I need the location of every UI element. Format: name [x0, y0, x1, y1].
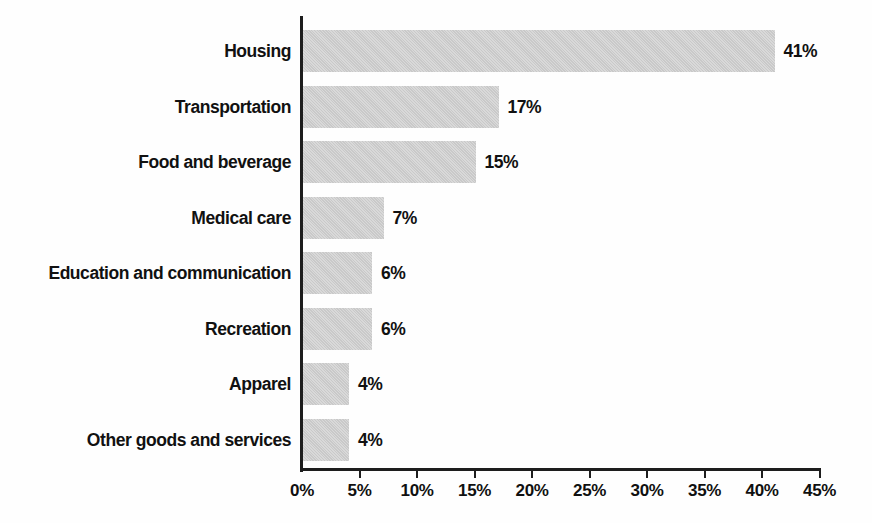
value-axis-line [300, 468, 821, 471]
bar-row: Education and communication6% [0, 252, 872, 294]
bar-value-label: 41% [784, 41, 818, 62]
axis-tick [646, 471, 648, 478]
bar[interactable] [303, 252, 372, 294]
bar-value-label: 6% [381, 318, 405, 339]
category-label: Food and beverage [138, 152, 291, 173]
bar-value-label: 6% [381, 263, 405, 284]
bar-value-label: 7% [393, 207, 417, 228]
category-label: Education and communication [48, 263, 291, 284]
bar-value-label: 17% [508, 96, 542, 117]
bar[interactable] [303, 308, 372, 350]
bar-value-label: 4% [358, 429, 382, 450]
axis-tick [531, 471, 533, 478]
bar-row: Apparel4% [0, 363, 872, 405]
bar[interactable] [303, 30, 775, 72]
axis-tick [474, 471, 476, 478]
category-label: Other goods and services [87, 429, 291, 450]
category-label: Apparel [229, 374, 291, 395]
bar[interactable] [303, 141, 476, 183]
bar[interactable] [303, 197, 384, 239]
axis-tick-label: 45% [785, 481, 855, 501]
bar-row: Medical care7% [0, 197, 872, 239]
bar-chart: 0%5%10%15%20%25%30%35%40%45% Housing41%T… [0, 0, 872, 523]
bar-row: Other goods and services4% [0, 419, 872, 461]
category-label: Transportation [175, 96, 291, 117]
bar-row: Housing41% [0, 30, 872, 72]
bar-value-label: 4% [358, 374, 382, 395]
bar[interactable] [303, 363, 349, 405]
axis-tick [416, 471, 418, 478]
category-label: Recreation [205, 318, 291, 339]
bar[interactable] [303, 419, 349, 461]
category-label: Housing [224, 41, 291, 62]
bar-value-label: 15% [485, 152, 519, 173]
axis-tick [819, 471, 821, 478]
bar-row: Transportation17% [0, 86, 872, 128]
axis-tick [359, 471, 361, 478]
bar[interactable] [303, 86, 499, 128]
bar-row: Food and beverage15% [0, 141, 872, 183]
plot-area: 0%5%10%15%20%25%30%35%40%45% Housing41%T… [0, 0, 872, 523]
bar-row: Recreation6% [0, 308, 872, 350]
axis-tick [589, 471, 591, 478]
axis-tick [761, 471, 763, 478]
axis-tick [704, 471, 706, 478]
category-label: Medical care [191, 207, 291, 228]
